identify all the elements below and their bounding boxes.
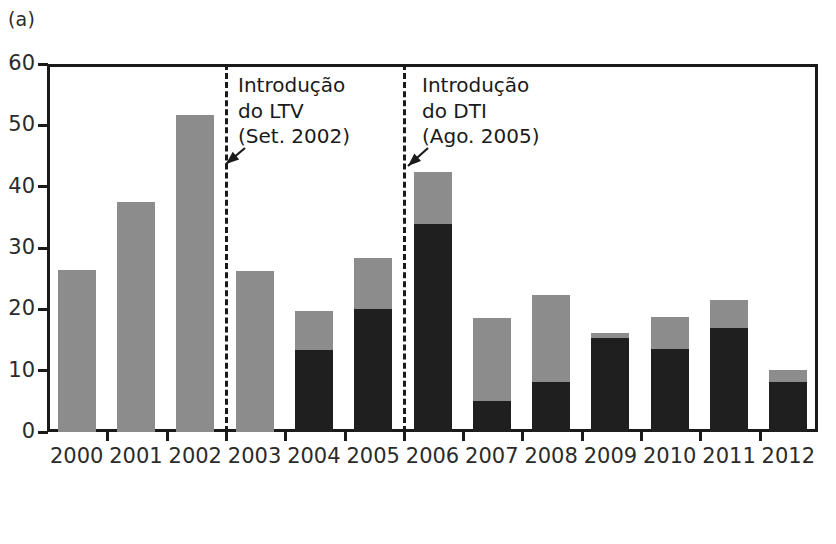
x-axis-tick-label: 2010	[640, 446, 699, 467]
annotation-arrow-dti	[394, 134, 442, 180]
bar-segment-gray	[710, 300, 748, 328]
bar-segment-gray	[117, 202, 155, 432]
x-axis-tick-label: 2005	[344, 446, 403, 467]
bar-2001	[117, 202, 155, 432]
bar-2007	[473, 318, 511, 432]
y-axis-tick	[38, 63, 48, 66]
x-axis-tick	[581, 432, 584, 441]
bar-2005	[354, 258, 392, 432]
y-axis-tick-label: 20	[8, 298, 35, 319]
x-axis-tick-label: 2012	[759, 446, 818, 467]
y-axis-tick	[38, 247, 48, 250]
bar-segment-gray	[651, 317, 689, 350]
dti-line	[403, 64, 406, 432]
x-axis-tick	[462, 432, 465, 441]
x-axis-tick-label: 2001	[106, 446, 165, 467]
annotation-line: Introdução	[238, 73, 350, 99]
bar-2011	[710, 300, 748, 432]
chart-panel-b: (b) 25	[0, 480, 836, 544]
y-axis-tick-label: 10	[8, 360, 35, 381]
x-axis-tick-label: 2011	[699, 446, 758, 467]
y-axis-tick	[38, 124, 48, 127]
x-axis-tick-label: 2000	[47, 446, 106, 467]
bar-segment-gray	[176, 115, 214, 432]
bar-segment-black	[532, 382, 570, 432]
y-axis-tick-label: 0	[22, 421, 35, 442]
x-axis-tick-label: 2008	[521, 446, 580, 467]
ltv-line	[225, 64, 228, 432]
bar-segment-black	[354, 309, 392, 432]
x-axis-tick	[106, 432, 109, 441]
bar-2000	[58, 270, 96, 432]
annotation-line: Introdução	[422, 73, 539, 99]
bar-segment-black	[414, 224, 452, 432]
x-axis-tick-label: 2009	[581, 446, 640, 467]
bar-2008	[532, 295, 570, 432]
bar-segment-gray	[236, 271, 274, 432]
bar-2009	[591, 333, 629, 432]
bar-segment-gray	[58, 270, 96, 432]
bar-segment-black	[591, 338, 629, 432]
bar-2004	[295, 311, 333, 432]
y-axis-tick-label: 40	[8, 176, 35, 197]
x-axis-tick	[344, 432, 347, 441]
y-axis-tick	[38, 185, 48, 188]
chart-panel-a: (a) 0102030405060 2000200120022003200420…	[0, 0, 836, 480]
x-axis-tick	[166, 432, 169, 441]
bar-2003	[236, 271, 274, 432]
x-axis-tick-label: 2006	[403, 446, 462, 467]
x-axis-tick	[284, 432, 287, 441]
x-axis-tick	[759, 432, 762, 441]
x-axis-tick-label: 2002	[166, 446, 225, 467]
bar-segment-gray	[354, 258, 392, 309]
bar-segment-gray	[769, 370, 807, 382]
bar-segment-black	[473, 401, 511, 432]
bar-segment-black	[651, 349, 689, 432]
x-axis-tick-label: 2007	[462, 446, 521, 467]
x-axis-tick	[521, 432, 524, 441]
y-axis-tick-label: 60	[8, 53, 35, 74]
annotation-arrow-ltv	[212, 134, 259, 178]
x-axis-tick-label: 2003	[225, 446, 284, 467]
bar-segment-black	[295, 350, 333, 432]
bar-segment-black	[769, 382, 807, 432]
bar-2006	[414, 172, 452, 432]
annotation-line: do DTI	[422, 99, 539, 125]
x-axis-tick	[640, 432, 643, 441]
bar-segment-black	[710, 328, 748, 432]
y-axis-tick	[38, 431, 48, 434]
bar-2010	[651, 317, 689, 432]
bar-segment-gray	[532, 295, 570, 382]
x-axis-tick	[403, 432, 406, 441]
panel-a-label: (a)	[8, 8, 35, 30]
annotation-line: do LTV	[238, 99, 350, 125]
x-axis-tick	[699, 432, 702, 441]
bar-segment-gray	[295, 311, 333, 350]
y-axis-tick	[38, 369, 48, 372]
y-axis-tick-label: 30	[8, 237, 35, 258]
bar-2002	[176, 115, 214, 432]
x-axis-tick	[225, 432, 228, 441]
bar-segment-gray	[473, 318, 511, 401]
y-axis-tick	[38, 308, 48, 311]
y-axis-tick-label: 50	[8, 114, 35, 135]
bar-2012	[769, 370, 807, 432]
x-axis-tick-label: 2004	[284, 446, 343, 467]
